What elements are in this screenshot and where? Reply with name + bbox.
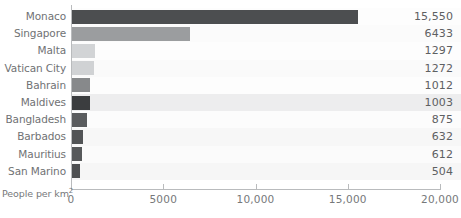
chart-rows: Monaco15,550Singapore6433Malta1297Vatica… [0, 8, 461, 188]
bar [71, 96, 90, 110]
bar-value-label: 6433 [425, 25, 453, 42]
row-background-band [71, 163, 461, 180]
category-label: San Marino [0, 163, 66, 180]
x-axis-tick-label: 10,000 [237, 193, 275, 205]
category-label: Singapore [0, 25, 66, 42]
x-axis-tick-label: 20,000 [421, 193, 459, 205]
chart-row: Maldives1003 [0, 94, 461, 111]
chart-row: Singapore6433 [0, 25, 461, 42]
x-axis-tick-label: 5000 [149, 193, 177, 205]
row-background-band [71, 60, 461, 77]
row-background-band [71, 111, 461, 128]
bar-value-label: 632 [432, 128, 453, 145]
y-axis-line [71, 5, 72, 189]
category-label: Monaco [0, 8, 66, 25]
bar [71, 164, 80, 178]
category-label: Malta [0, 42, 66, 59]
chart-row: San Marino504 [0, 163, 461, 180]
chart-row: Monaco15,550 [0, 8, 461, 25]
chart-row: Mauritius612 [0, 146, 461, 163]
row-background-band [71, 128, 461, 145]
bar [71, 44, 95, 58]
row-background-band [71, 146, 461, 163]
x-axis-tick [440, 184, 441, 190]
x-axis-tick [163, 184, 164, 190]
bar [71, 147, 82, 161]
category-label: Maldives [0, 94, 66, 111]
bar [71, 61, 94, 75]
chart-row: Barbados632 [0, 128, 461, 145]
chart-row: Bangladesh875 [0, 111, 461, 128]
row-background-band [71, 42, 461, 59]
bar [71, 130, 83, 144]
x-axis-tick [256, 184, 257, 190]
chart-row: Malta1297 [0, 42, 461, 59]
bar-value-label: 15,550 [414, 8, 453, 25]
bar-chart: Monaco15,550Singapore6433Malta1297Vatica… [0, 0, 461, 218]
row-background-band [71, 77, 461, 94]
bar-value-label: 1272 [425, 60, 453, 77]
x-axis-tick [348, 184, 349, 190]
bar-value-label: 1003 [425, 94, 453, 111]
bar-value-label: 1012 [425, 77, 453, 94]
chart-row: Bahrain1012 [0, 77, 461, 94]
x-axis-title-text: People per km2 [2, 188, 73, 199]
bar-value-label: 1297 [425, 42, 453, 59]
chart-row: Vatican City1272 [0, 60, 461, 77]
bar [71, 27, 190, 41]
bar-value-label: 875 [432, 111, 453, 128]
category-label: Mauritius [0, 146, 66, 163]
bar-value-label: 504 [432, 163, 453, 180]
category-label: Bahrain [0, 77, 66, 94]
bar-value-label: 612 [432, 146, 453, 163]
bar [71, 78, 90, 92]
x-axis-title: People per km2 [2, 188, 73, 199]
bar [71, 10, 358, 24]
category-label: Vatican City [0, 60, 66, 77]
row-background-band [71, 94, 461, 111]
x-axis-tick-label: 15,000 [329, 193, 367, 205]
bar [71, 113, 87, 127]
category-label: Bangladesh [0, 111, 66, 128]
category-label: Barbados [0, 128, 66, 145]
